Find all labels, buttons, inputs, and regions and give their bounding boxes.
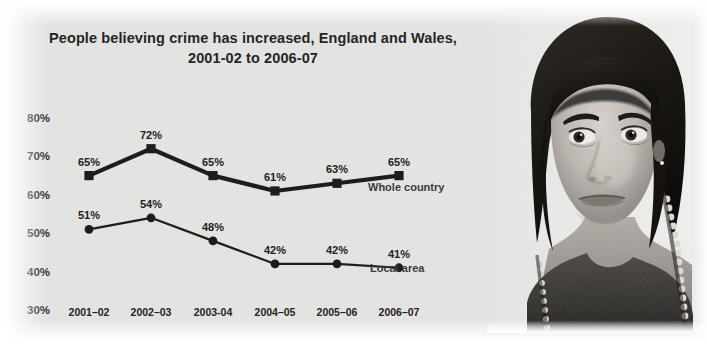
data-point-label: 65% <box>66 156 112 168</box>
data-point-label: 72% <box>128 129 174 141</box>
data-point-marker <box>270 186 279 195</box>
data-point-marker <box>394 171 403 180</box>
data-point-marker <box>146 144 155 153</box>
data-point-marker <box>85 225 94 234</box>
data-point-marker <box>271 260 280 269</box>
data-point-marker <box>333 260 342 269</box>
data-point-marker <box>147 213 156 222</box>
data-point-label: 41% <box>376 248 422 260</box>
bottom-edge-fade <box>0 320 707 350</box>
series-label-whole-country: Whole country <box>368 181 444 193</box>
data-point-label: 65% <box>376 156 422 168</box>
data-point-label: 54% <box>128 198 174 210</box>
x-axis-tick: 2003-04 <box>182 306 244 318</box>
top-edge-fade <box>0 0 707 26</box>
plot-area: 80% 70% 60% 50% 40% 30% 65%72%65%61%63%6… <box>0 0 500 350</box>
chart-figure: People believing crime has increased, En… <box>0 0 707 350</box>
data-point-label: 63% <box>314 163 360 175</box>
x-axis-tick: 2006–07 <box>368 306 430 318</box>
series-label-local-area: Local area <box>370 262 424 274</box>
right-edge-fade <box>693 0 707 350</box>
series-lines <box>0 0 500 350</box>
left-edge-fade <box>0 0 46 350</box>
x-axis-tick: 2002–03 <box>120 306 182 318</box>
x-axis-tick: 2004–05 <box>244 306 306 318</box>
data-point-marker <box>332 179 341 188</box>
data-point-label: 51% <box>66 209 112 221</box>
portrait-photo <box>487 3 707 333</box>
data-point-marker <box>84 171 93 180</box>
data-point-label: 65% <box>190 156 236 168</box>
x-axis-tick: 2001–02 <box>58 306 120 318</box>
x-axis-tick: 2005–06 <box>306 306 368 318</box>
data-point-marker <box>208 171 217 180</box>
data-point-label: 48% <box>190 221 236 233</box>
data-point-label: 61% <box>252 171 298 183</box>
data-point-marker <box>209 236 218 245</box>
data-point-label: 42% <box>314 244 360 256</box>
data-point-label: 42% <box>252 244 298 256</box>
line-local-area <box>89 218 399 268</box>
